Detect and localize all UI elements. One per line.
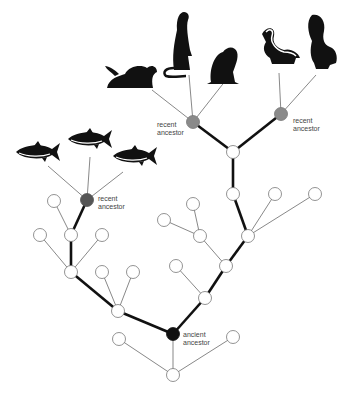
recent-ancestor-node bbox=[81, 194, 94, 207]
label-line1: recent bbox=[293, 117, 320, 125]
node bbox=[269, 188, 282, 201]
label-line2: ancestor bbox=[157, 129, 184, 137]
tuna-2-fish-icon bbox=[68, 128, 112, 149]
node bbox=[170, 260, 183, 273]
spotted-skunk-spotted-skunk-icon bbox=[308, 15, 337, 69]
label-line1: recent bbox=[98, 195, 125, 203]
leaf-branch bbox=[193, 80, 226, 122]
marmot-marmot-icon bbox=[207, 48, 239, 85]
node bbox=[194, 230, 207, 243]
leaf-branch bbox=[281, 75, 316, 114]
lineage-branch bbox=[71, 272, 118, 311]
label-line2: ancestor bbox=[293, 125, 320, 133]
node bbox=[96, 229, 109, 242]
lineage-branch bbox=[193, 122, 233, 152]
lineage-branch bbox=[118, 311, 173, 334]
node bbox=[112, 305, 125, 318]
node bbox=[187, 198, 200, 211]
ancient-ancestor-node bbox=[167, 328, 180, 341]
tree-canvas bbox=[0, 0, 351, 393]
node bbox=[127, 266, 140, 279]
node bbox=[227, 188, 240, 201]
node bbox=[227, 331, 240, 344]
organism-silhouettes bbox=[16, 12, 337, 166]
node bbox=[199, 292, 212, 305]
striped-skunk-skunk-icon bbox=[262, 28, 300, 64]
node bbox=[227, 146, 240, 159]
side-branch bbox=[40, 235, 71, 272]
recent-ancestor-node bbox=[275, 108, 288, 121]
node bbox=[65, 266, 78, 279]
node bbox=[96, 266, 109, 279]
tuna-1-fish-icon bbox=[16, 141, 60, 162]
side-branch bbox=[248, 194, 275, 236]
lineage-branch bbox=[233, 114, 281, 152]
node bbox=[220, 260, 233, 273]
phylogenetic-tree-diagram: recent ancestor recent ancestor recent a… bbox=[0, 0, 351, 393]
side-branch bbox=[71, 235, 102, 272]
lineage-branch bbox=[173, 298, 205, 334]
label-ancient-ancestor: ancient ancestor bbox=[183, 331, 210, 347]
label-line2: ancestor bbox=[98, 203, 125, 211]
node bbox=[242, 230, 255, 243]
node bbox=[309, 188, 322, 201]
label-line1: recent bbox=[157, 121, 184, 129]
node bbox=[167, 369, 180, 382]
recent-ancestor-node bbox=[187, 116, 200, 129]
sea-otter-otter-icon bbox=[105, 66, 157, 88]
side-branch bbox=[119, 339, 173, 375]
label-fish-recent-ancestor: recent ancestor bbox=[98, 195, 125, 211]
node bbox=[113, 333, 126, 346]
tree-nodes bbox=[34, 108, 322, 382]
leaf-branch bbox=[152, 90, 193, 122]
tuna-3-fish-icon bbox=[113, 145, 157, 166]
label-line2: ancestor bbox=[183, 339, 210, 347]
label-mammal-left-recent-ancestor: recent ancestor bbox=[157, 121, 184, 137]
node bbox=[34, 229, 47, 242]
node bbox=[65, 229, 78, 242]
leaf-branch bbox=[189, 75, 193, 122]
node bbox=[48, 195, 61, 208]
node bbox=[158, 214, 171, 227]
label-line1: ancient bbox=[183, 331, 210, 339]
weasel-weasel-icon bbox=[164, 12, 192, 77]
side-branch bbox=[248, 194, 315, 236]
label-mammal-right-recent-ancestor: recent ancestor bbox=[293, 117, 320, 133]
